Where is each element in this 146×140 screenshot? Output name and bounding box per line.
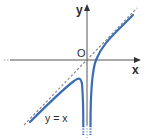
y-axis-arrow-icon [84,4,90,11]
asymptote-line [24,8,137,125]
x-axis-label: x [132,64,139,76]
function-graph: y x O y = x [0,0,146,140]
curve-right-branch [91,15,134,126]
x-axis [4,57,141,63]
y-axis [84,4,90,138]
graph-canvas [0,0,146,140]
origin-label: O [77,48,86,59]
y-axis-label: y [76,4,83,16]
asymptote-label: y = x [45,113,67,124]
